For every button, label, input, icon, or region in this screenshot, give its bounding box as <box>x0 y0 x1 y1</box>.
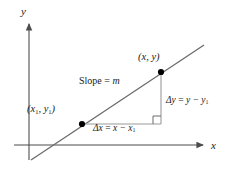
slope-equals: = <box>102 75 113 86</box>
delta-x-subscript: 1 <box>133 127 136 133</box>
delta-y-lhs: Δy <box>166 95 176 105</box>
delta-y-equals: = <box>176 95 186 105</box>
point-marker-xy <box>158 69 164 75</box>
point-label-x1y1-open: (x <box>27 103 35 114</box>
x-axis-label: x <box>211 140 216 151</box>
y-axis-label: y <box>21 6 26 17</box>
right-angle-marker-icon <box>153 116 161 124</box>
point-marker-x1y1 <box>79 121 85 127</box>
point-label-x1y1-close: ) <box>52 103 56 114</box>
point-label-x1y1-mid: , y <box>38 103 48 114</box>
delta-x-lhs: Δx <box>93 123 103 133</box>
slope-word: Slope <box>79 75 102 86</box>
delta-y-subscript: 1 <box>206 99 209 105</box>
point-label-x1y1: (x1, y1) <box>27 104 55 115</box>
point-label-xy: (x, y) <box>138 52 160 63</box>
delta-x-equals: = <box>103 123 113 133</box>
delta-x-label: Δx = x − x1 <box>93 124 135 134</box>
delta-y-label: Δy = y − y1 <box>166 96 208 106</box>
delta-y-rhs: y − y <box>186 95 206 105</box>
slope-figure: y x (x, y) (x1, y1) Slope = m Δy = y − y… <box>0 0 226 170</box>
slope-symbol: m <box>112 75 119 86</box>
slope-label: Slope = m <box>79 76 120 86</box>
delta-x-rhs: x − x <box>113 123 133 133</box>
